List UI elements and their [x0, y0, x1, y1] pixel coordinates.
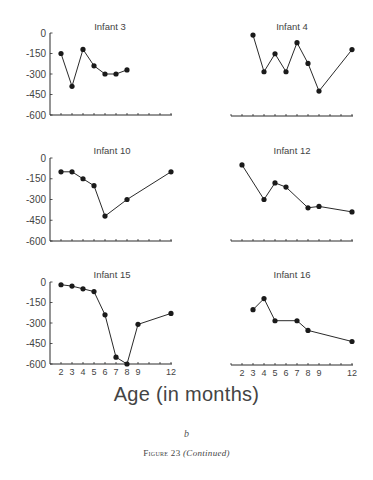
y-tick-label: -450 — [26, 89, 46, 100]
series-line — [253, 35, 352, 91]
data-point — [124, 197, 129, 202]
data-point — [250, 307, 255, 312]
data-point — [58, 282, 63, 287]
figure: Infant 30-150-300-450-600Infant 4Infant … — [0, 0, 373, 480]
caption-suffix: (Continued) — [183, 448, 230, 458]
data-point — [91, 289, 96, 294]
data-point — [124, 67, 129, 72]
x-tick-label: 2 — [58, 367, 63, 377]
x-tick-label: 8 — [305, 368, 310, 378]
data-point — [102, 71, 107, 76]
caption-prefix: Figure 23 — [143, 448, 180, 458]
x-tick-label: 9 — [135, 367, 140, 377]
panel-title: Infant 16 — [274, 269, 311, 280]
data-point — [349, 209, 354, 214]
data-point — [168, 311, 173, 316]
data-point — [294, 318, 299, 323]
panel-infant-16: Infant 162345678912 — [231, 269, 357, 378]
x-tick-label: 3 — [69, 367, 74, 377]
panel-infant-4: Infant 4 — [231, 21, 355, 116]
y-tick-label: -150 — [26, 48, 46, 59]
y-tick-label: -450 — [26, 338, 46, 349]
panel-title: Infant 4 — [276, 21, 308, 32]
y-tick-label: -300 — [26, 194, 46, 205]
data-point — [283, 184, 288, 189]
y-tick-label: 0 — [40, 277, 46, 288]
data-point — [69, 169, 74, 174]
data-point — [349, 47, 354, 52]
x-tick-label: 12 — [166, 367, 176, 377]
data-point — [113, 71, 118, 76]
data-point — [261, 69, 266, 74]
data-point — [58, 51, 63, 56]
data-point — [91, 183, 96, 188]
figure-caption: Figure 23 (Continued) — [0, 448, 373, 458]
x-tick-label: 2 — [239, 368, 244, 378]
y-tick-label: 0 — [40, 153, 46, 164]
y-tick-label: -450 — [26, 215, 46, 226]
data-point — [80, 176, 85, 181]
y-tick-label: -300 — [26, 318, 46, 329]
y-tick-label: -300 — [26, 69, 46, 80]
series-line — [61, 172, 171, 216]
x-tick-label: 4 — [80, 367, 85, 377]
data-point — [102, 214, 107, 219]
panel-infant-15: Infant 150-150-300-450-6002345678912 — [26, 269, 176, 377]
data-point — [305, 61, 310, 66]
x-tick-label: 5 — [272, 368, 277, 378]
series-line — [61, 285, 171, 364]
y-tick-label: -600 — [26, 110, 46, 121]
x-axis-label: Age (in months) — [0, 383, 373, 406]
data-point — [272, 180, 277, 185]
panel-infant-3: Infant 30-150-300-450-600 — [26, 21, 172, 121]
data-point — [272, 51, 277, 56]
y-tick-label: -600 — [26, 236, 46, 247]
panel-infant-10: Infant 100-150-300-450-600 — [26, 145, 174, 247]
data-point — [349, 339, 354, 344]
y-tick-label: -150 — [26, 173, 46, 184]
data-point — [239, 162, 244, 167]
y-tick-label: -150 — [26, 297, 46, 308]
panel-title: Infant 12 — [274, 145, 311, 156]
data-point — [294, 40, 299, 45]
series-line — [242, 165, 352, 212]
x-tick-label: 12 — [347, 368, 357, 378]
data-point — [113, 355, 118, 360]
data-point — [80, 286, 85, 291]
data-point — [305, 205, 310, 210]
x-tick-label: 7 — [113, 367, 118, 377]
data-point — [69, 84, 74, 89]
data-point — [316, 89, 321, 94]
x-tick-label: 6 — [283, 368, 288, 378]
data-point — [283, 69, 288, 74]
data-point — [69, 284, 74, 289]
x-tick-label: 3 — [250, 368, 255, 378]
panel-title: Infant 15 — [94, 269, 131, 280]
x-tick-label: 4 — [261, 368, 266, 378]
data-point — [91, 63, 96, 68]
y-tick-label: -600 — [26, 359, 46, 370]
data-point — [305, 328, 310, 333]
data-point — [316, 204, 321, 209]
data-point — [124, 361, 129, 366]
x-tick-label: 8 — [124, 367, 129, 377]
data-point — [261, 197, 266, 202]
x-tick-label: 5 — [91, 367, 96, 377]
panel-title: Infant 10 — [94, 145, 131, 156]
panel-title: Infant 3 — [94, 21, 126, 32]
series-line — [253, 299, 352, 342]
x-tick-label: 7 — [294, 368, 299, 378]
data-point — [58, 169, 63, 174]
small-multiples-chart: Infant 30-150-300-450-600Infant 4Infant … — [0, 0, 373, 480]
data-point — [80, 47, 85, 52]
panel-infant-12: Infant 12 — [231, 145, 355, 241]
y-tick-label: 0 — [40, 28, 46, 39]
data-point — [250, 32, 255, 37]
data-point — [261, 296, 266, 301]
x-tick-label: 6 — [102, 367, 107, 377]
subfigure-label: b — [0, 428, 373, 439]
data-point — [168, 169, 173, 174]
data-point — [102, 312, 107, 317]
data-point — [135, 322, 140, 327]
x-tick-label: 9 — [316, 368, 321, 378]
